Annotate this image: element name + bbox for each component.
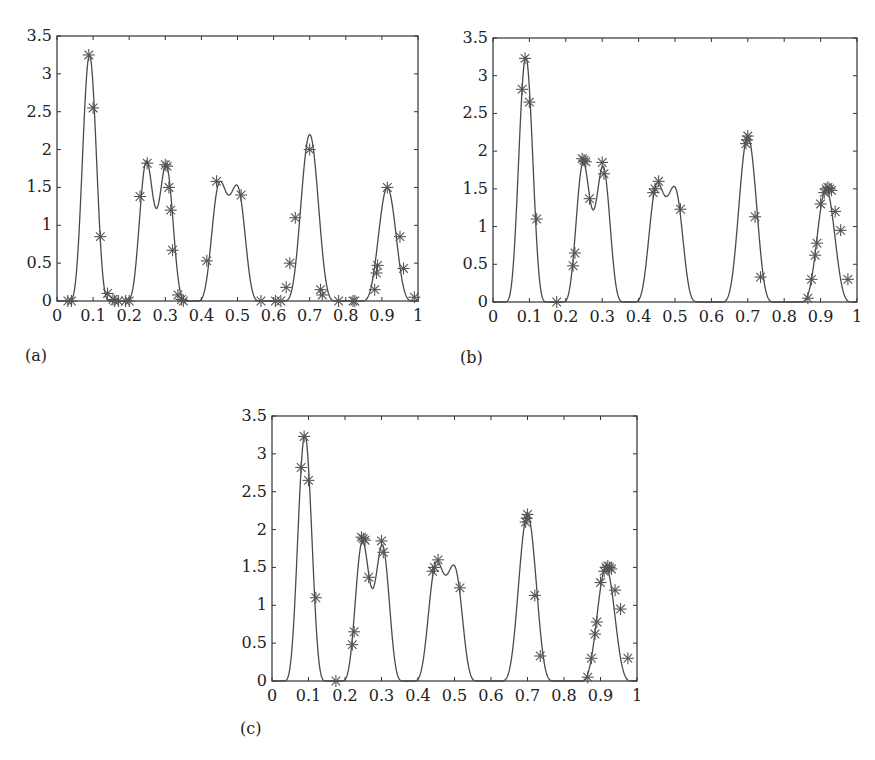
asterisk-marker: [377, 546, 389, 558]
asterisk-marker: [376, 535, 388, 547]
y-tick-label: 0.5: [242, 633, 267, 652]
asterisk-marker: [298, 430, 310, 442]
x-tick-label: 0.6: [478, 686, 503, 705]
asterisk-marker: [615, 603, 627, 615]
asterisk-marker: [595, 577, 607, 589]
asterisk-marker: [303, 474, 315, 486]
x-tick-label: 0.5: [442, 686, 467, 705]
asterisk-marker: [330, 675, 342, 687]
asterisk-marker: [310, 592, 322, 604]
asterisk-marker: [585, 652, 597, 664]
y-tick-label: 1: [257, 595, 267, 614]
asterisk-marker: [529, 589, 541, 601]
y-tick-label: 2: [257, 520, 267, 539]
asterisk-marker: [622, 652, 634, 664]
asterisk-marker: [534, 650, 546, 662]
plot-area-c: 00.10.20.30.40.50.60.70.80.9100.511.522.…: [0, 0, 875, 760]
x-tick-label: 0.1: [296, 686, 321, 705]
y-tick-label: 3.5: [242, 406, 267, 425]
function-curve: [272, 435, 637, 681]
asterisk-marker: [589, 628, 601, 640]
asterisk-marker: [522, 508, 534, 520]
y-tick-label: 3: [257, 444, 267, 463]
sample-markers: [295, 430, 634, 687]
y-tick-label: 2.5: [242, 482, 267, 501]
asterisk-marker: [609, 584, 621, 596]
asterisk-marker: [591, 616, 603, 628]
x-tick-label: 0.3: [369, 686, 394, 705]
asterisk-marker: [346, 639, 358, 651]
x-tick-label: 0: [267, 686, 277, 705]
asterisk-marker: [363, 571, 375, 583]
panel-label-c: (c): [240, 719, 261, 738]
asterisk-marker: [359, 534, 371, 546]
x-tick-label: 1: [632, 686, 642, 705]
asterisk-marker: [582, 671, 594, 683]
asterisk-marker: [295, 461, 307, 473]
asterisk-marker: [432, 554, 444, 566]
x-tick-label: 0.2: [332, 686, 357, 705]
x-tick-label: 0.9: [588, 686, 613, 705]
y-tick-label: 1.5: [242, 557, 267, 576]
asterisk-marker: [454, 582, 466, 594]
asterisk-marker: [348, 626, 360, 638]
x-tick-label: 0.8: [551, 686, 576, 705]
asterisk-marker: [605, 563, 617, 575]
y-tick-label: 0: [257, 671, 267, 690]
x-tick-label: 0.7: [515, 686, 540, 705]
axes-frame: [272, 416, 637, 681]
x-tick-label: 0.4: [405, 686, 430, 705]
